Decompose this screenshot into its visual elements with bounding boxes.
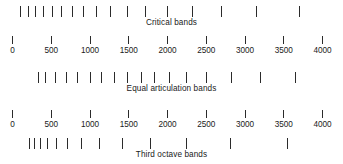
band-edge-tick [43, 6, 44, 17]
axis-tick [12, 110, 13, 118]
frequency-axis-upper: 05001000150020002500300035004000 [0, 36, 343, 57]
axis-tick-label: 3500 [275, 119, 293, 130]
band-edge-tick [127, 72, 128, 83]
band-edge-tick [150, 138, 151, 149]
band-edge-tick [256, 6, 257, 17]
axis-tick-label: 1500 [120, 119, 138, 130]
band-edge-tick [221, 6, 222, 17]
band-edge-tick [141, 72, 142, 83]
band-edge-tick [61, 6, 62, 17]
band-edge-tick [20, 6, 21, 17]
axis-tick [322, 110, 323, 118]
band-edge-tick [169, 72, 170, 83]
axis-tick [90, 110, 91, 118]
band-edge-tick [90, 72, 91, 83]
band-edge-tick [287, 138, 288, 149]
band-edge-tick [230, 138, 231, 149]
axis-tick-label: 2000 [158, 119, 176, 130]
axis-tick [245, 110, 246, 118]
band-edge-tick [72, 6, 73, 17]
critical-bands-caption: Critical bands [0, 18, 343, 28]
axis-tick [206, 110, 207, 118]
axis-tick-label: 4000 [313, 45, 331, 56]
band-edge-tick [114, 72, 115, 83]
band-edge-tick [66, 72, 67, 83]
band-edge-tick [34, 138, 35, 149]
axis-tick-label: 0 [10, 45, 15, 56]
band-edge-tick [299, 6, 300, 17]
band-edge-tick [99, 138, 100, 149]
band-edge-tick [81, 138, 82, 149]
equal-articulation-bands-caption: Equal articulation bands [0, 84, 343, 94]
band-edge-tick [127, 6, 128, 17]
band-edge-tick [55, 72, 56, 83]
band-comparison-figure: Critical bands 0500100015002000250030003… [0, 0, 343, 164]
axis-tick-label: 3000 [236, 45, 254, 56]
band-edge-tick [186, 72, 187, 83]
axis-tick-label: 500 [44, 45, 58, 56]
axis-tick [206, 36, 207, 44]
band-edge-tick [206, 72, 207, 83]
axis-tick [167, 36, 168, 44]
band-edge-tick [260, 72, 261, 83]
band-edge-tick [38, 72, 39, 83]
band-edge-tick [45, 72, 46, 83]
band-edge-tick [28, 6, 29, 17]
axis-tick-label: 4000 [313, 119, 331, 130]
band-edge-tick [192, 6, 193, 17]
band-edge-tick [77, 72, 78, 83]
third-octave-bands-caption: Third octave bands [0, 150, 343, 160]
band-edge-tick [35, 6, 36, 17]
axis-tick [245, 36, 246, 44]
axis-tick-label: 2500 [197, 45, 215, 56]
axis-tick [128, 36, 129, 44]
band-edge-tick [83, 6, 84, 17]
axis-tick [283, 110, 284, 118]
axis-tick-label: 2500 [197, 119, 215, 130]
equal-articulation-bands-tick-row [0, 72, 343, 83]
band-edge-tick [110, 6, 111, 17]
axis-tick-label: 1000 [81, 45, 99, 56]
band-edge-tick [47, 138, 48, 149]
axis-tick [51, 110, 52, 118]
band-edge-tick [29, 138, 30, 149]
axis-tick [90, 36, 91, 44]
band-edge-tick [52, 6, 53, 17]
band-edge-tick [231, 72, 232, 83]
band-edge-tick [101, 72, 102, 83]
axis-tick-label: 3000 [236, 119, 254, 130]
axis-tick [51, 36, 52, 44]
axis-tick [12, 36, 13, 44]
axis-tick [283, 36, 284, 44]
band-edge-tick [167, 6, 168, 17]
critical-bands-tick-row [0, 6, 343, 17]
band-edge-tick [40, 138, 41, 149]
band-edge-tick [186, 138, 187, 149]
axis-tick [167, 110, 168, 118]
frequency-axis-lower: 05001000150020002500300035004000 [0, 110, 343, 131]
axis-tick-label: 500 [44, 119, 58, 130]
axis-tick [128, 110, 129, 118]
axis-tick-label: 0 [10, 119, 15, 130]
band-edge-tick [96, 6, 97, 17]
axis-tick-label: 3500 [275, 45, 293, 56]
band-edge-tick [67, 138, 68, 149]
axis-tick [322, 36, 323, 44]
band-edge-tick [122, 138, 123, 149]
axis-tick-label: 1500 [120, 45, 138, 56]
axis-tick-label: 2000 [158, 45, 176, 56]
axis-tick-label: 1000 [81, 119, 99, 130]
band-edge-tick [154, 72, 155, 83]
third-octave-bands-tick-row [0, 138, 343, 149]
band-edge-tick [295, 72, 296, 83]
band-edge-tick [56, 138, 57, 149]
band-edge-tick [145, 6, 146, 17]
